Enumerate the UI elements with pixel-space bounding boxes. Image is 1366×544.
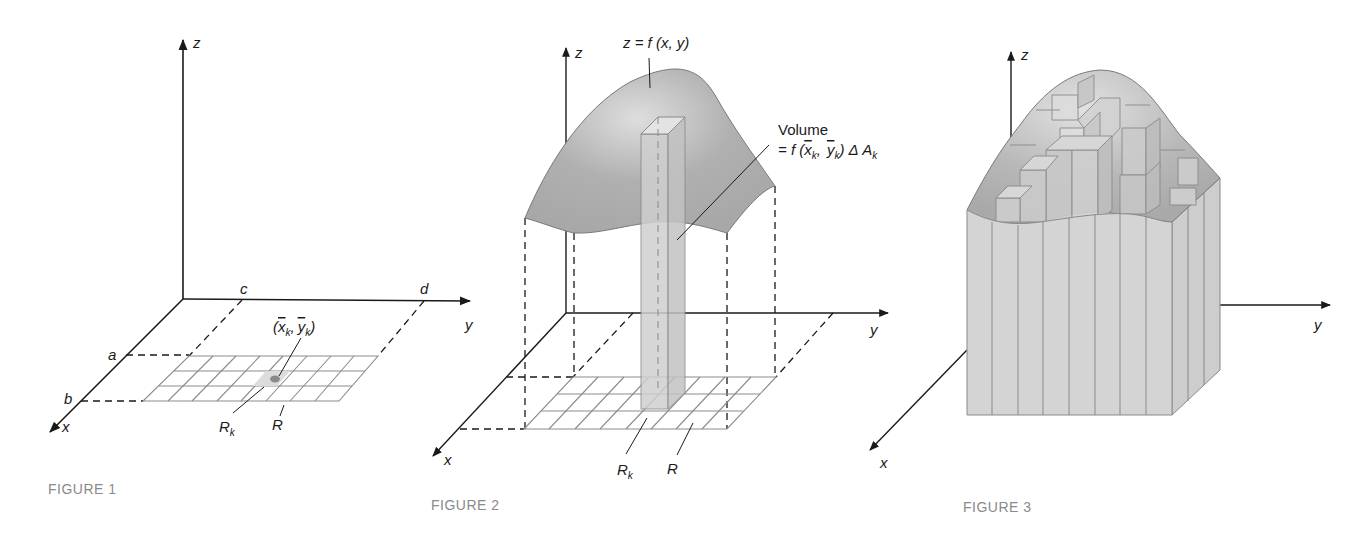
bound-b-label: b <box>64 390 72 407</box>
figure-2-caption: FIGURE 2 <box>431 497 500 513</box>
y-axis-label: y <box>464 316 474 333</box>
volume-title: Volume <box>778 121 828 138</box>
bound-c-label: c <box>240 280 248 297</box>
x-axis <box>50 299 183 432</box>
figure-3-caption: FIGURE 3 <box>963 499 1032 515</box>
figure-3: z y x <box>870 46 1330 515</box>
sample-point-label: (xk,yk) <box>273 318 315 338</box>
figure-1-caption: FIGURE 1 <box>48 481 117 497</box>
y-axis-label: y <box>1313 316 1323 333</box>
subrect-rk-label: Rk <box>617 461 634 481</box>
x-axis <box>870 350 967 450</box>
x-axis <box>433 313 566 456</box>
z-axis-label: z <box>1020 46 1029 63</box>
volume-column <box>641 117 685 409</box>
volume-formula: = f (xk,yk) Δ Ak <box>778 141 878 161</box>
bound-d-label: d <box>420 280 429 297</box>
subrect-rk-label: Rk <box>219 418 236 438</box>
figure-2: z y x <box>431 34 888 513</box>
region-r-label: R <box>667 460 678 477</box>
y-axis <box>183 299 470 301</box>
region-r-label: R <box>272 416 283 433</box>
surface-label: z = f (x, y) <box>622 34 689 51</box>
bound-a-label: a <box>108 346 116 363</box>
x-axis-label: x <box>61 418 70 435</box>
z-axis-label: z <box>574 44 583 61</box>
sample-point <box>270 376 280 383</box>
x-axis-label: x <box>443 451 452 468</box>
y-axis-label: y <box>869 321 879 338</box>
figures-canvas: z y x c d a b <box>0 0 1366 544</box>
z-axis-label: z <box>192 34 201 51</box>
x-axis-label: x <box>879 454 888 471</box>
figure-1: z y x c d a b <box>48 34 474 497</box>
